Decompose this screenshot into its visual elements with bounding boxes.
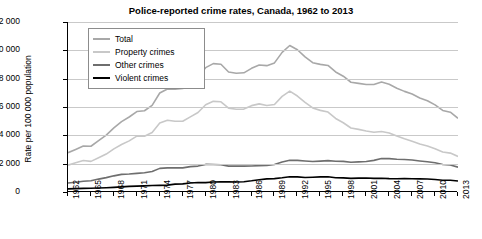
x-axis-tick-label: 1965 [93,180,103,199]
y-axis-tick-label: 12 000 [0,16,20,26]
x-axis-tick-label: 2013 [461,180,471,199]
x-axis-tick-mark [296,192,297,196]
chart-legend: TotalProperty crimesOther crimesViolent … [88,28,205,89]
legend-label: Total [115,34,133,44]
chart-title: Police-reported crime rates, Canada, 196… [0,5,482,16]
x-axis-tick-mark [365,192,366,196]
x-axis-tick-label: 2010 [438,180,448,199]
x-axis-tick-label: 1980 [208,180,218,199]
x-axis-tick-label: 1974 [162,180,172,199]
y-axis-tick-label: 2 000 [0,158,20,168]
crime-rate-line-chart: Police-reported crime rates, Canada, 196… [0,0,482,239]
x-axis-tick-mark [457,192,458,196]
y-axis-tick-label: 0 [0,186,20,196]
x-axis-tick-label: 1986 [254,180,264,199]
legend-item: Property crimes [93,45,200,58]
legend-swatch [93,38,110,40]
x-axis-tick-mark [228,192,229,196]
x-axis-tick-label: 2007 [415,180,425,199]
x-axis-tick-label: 1983 [231,180,241,199]
x-axis-tick-label: 1962 [71,180,81,199]
series-line [68,91,458,165]
gridline [68,107,458,108]
x-axis-tick-mark [159,192,160,196]
x-axis-tick-mark [136,192,137,196]
x-axis-tick-mark [342,192,343,196]
x-axis-tick-label: 1989 [277,180,287,199]
y-axis-tick-label: 4 000 [0,129,20,139]
y-axis-tick-label: 8 000 [0,73,20,83]
gridline [68,22,458,23]
x-axis-tick-mark [205,192,206,196]
legend-label: Property crimes [115,47,175,57]
legend-item: Total [93,32,200,45]
x-axis-tick-mark [113,192,114,196]
legend-swatch [93,77,110,79]
legend-label: Violent crimes [115,73,168,83]
x-axis-tick-label: 1998 [346,180,356,199]
x-axis-tick-mark [388,192,389,196]
x-axis-tick-label: 2001 [369,180,379,199]
x-axis-tick-mark [251,192,252,196]
legend-item: Violent crimes [93,71,200,84]
x-axis-tick-label: 2004 [392,180,402,199]
y-axis-tick-label: 10 000 [0,44,20,54]
x-axis-tick-label: 1992 [300,180,310,199]
gridline [68,135,458,136]
gridline [68,164,458,165]
legend-item: Other crimes [93,58,200,71]
x-axis-tick-mark [182,192,183,196]
x-axis-tick-mark [434,192,435,196]
x-axis-tick-label: 1971 [139,180,149,199]
y-axis-label: Rate per 100 000 population [23,29,33,189]
x-axis-tick-mark [411,192,412,196]
x-axis-tick-label: 1977 [185,180,195,199]
x-axis-tick-mark [319,192,320,196]
legend-label: Other crimes [115,60,164,70]
x-axis-tick-mark [90,192,91,196]
x-axis-tick-label: 1995 [323,180,333,199]
legend-swatch [93,51,110,53]
x-axis-tick-label: 1968 [116,180,126,199]
legend-swatch [93,64,110,66]
y-axis-tick-label: 6 000 [0,101,20,111]
x-axis-tick-mark [67,192,68,196]
x-axis-tick-mark [273,192,274,196]
